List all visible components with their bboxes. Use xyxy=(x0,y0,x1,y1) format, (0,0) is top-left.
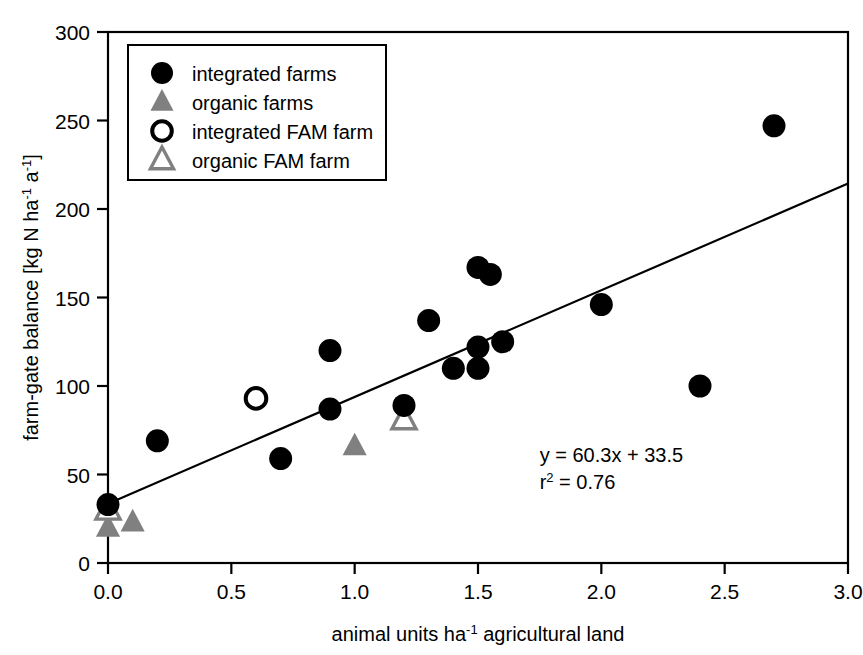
y-tick-label: 300 xyxy=(55,21,90,44)
data-point xyxy=(763,114,786,137)
legend: integrated farmsorganic farmsintegrated … xyxy=(128,45,386,180)
data-point xyxy=(393,394,416,417)
x-tick-label: 1.0 xyxy=(340,580,369,603)
legend-label: integrated farms xyxy=(192,63,337,85)
legend-label: organic FAM farm xyxy=(192,150,350,172)
legend-label: integrated FAM farm xyxy=(192,121,373,143)
legend-label: organic farms xyxy=(192,92,313,114)
x-tick-label: 1.5 xyxy=(463,580,492,603)
data-point xyxy=(590,293,613,316)
y-tick-label: 200 xyxy=(55,198,90,221)
data-point xyxy=(467,336,490,359)
y-tick-label: 0 xyxy=(78,552,90,575)
data-point xyxy=(417,309,440,332)
y-tick-label: 100 xyxy=(55,375,90,398)
chart-canvas: 0501001502002503000.00.51.01.52.02.53.0a… xyxy=(0,0,863,655)
data-point xyxy=(269,447,292,470)
data-point xyxy=(479,263,502,286)
y-tick-label: 50 xyxy=(67,464,90,487)
x-tick-label: 0.0 xyxy=(93,580,122,603)
r-squared-label: r2 = 0.76 xyxy=(540,469,616,493)
data-point xyxy=(689,375,712,398)
x-tick-label: 3.0 xyxy=(833,580,862,603)
data-point xyxy=(319,339,342,362)
data-point xyxy=(97,493,120,516)
x-tick-label: 2.5 xyxy=(710,580,739,603)
data-point xyxy=(246,388,267,409)
data-point xyxy=(442,357,465,380)
data-point xyxy=(319,398,342,421)
data-point xyxy=(121,509,145,532)
data-point xyxy=(146,429,169,452)
regression-equation: y = 60.3x + 33.5 xyxy=(540,444,683,466)
data-point xyxy=(343,433,367,456)
x-tick-label: 2.0 xyxy=(587,580,616,603)
legend-marker xyxy=(152,121,172,141)
x-tick-label: 0.5 xyxy=(217,580,246,603)
y-tick-label: 150 xyxy=(55,287,90,310)
series-organic-FAM-farm xyxy=(96,406,416,519)
scatter-plot-figure: 0501001502002503000.00.51.01.52.02.53.0a… xyxy=(0,0,863,655)
y-axis-title: farm-gate balance [kg N ha-1 a-1] xyxy=(19,154,43,441)
data-point xyxy=(467,357,490,380)
y-tick-label: 250 xyxy=(55,110,90,133)
series-integrated-FAM-farm xyxy=(246,388,267,409)
series-organic-farms xyxy=(96,433,367,537)
legend-marker xyxy=(151,62,173,84)
x-axis-title: animal units ha-1 agricultural land xyxy=(332,622,625,646)
data-point xyxy=(491,330,514,353)
